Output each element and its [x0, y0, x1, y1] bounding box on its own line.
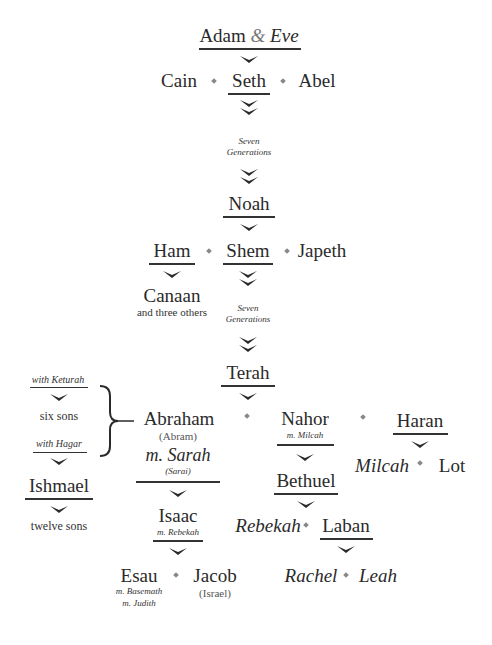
underline-abraham [136, 481, 220, 483]
chevron-down-icon [49, 393, 69, 403]
node-ishmael: Ishmael [29, 475, 89, 497]
node-abel: Abel [299, 70, 336, 92]
node-laban: Laban [322, 515, 369, 537]
six-sons: six sons [40, 410, 78, 423]
with-hagar: with Hagar [36, 438, 82, 449]
separator-dot [244, 413, 250, 419]
underline-noah [223, 216, 275, 218]
node-canaan: Canaan [144, 285, 201, 307]
chevron-down-icon [239, 55, 259, 65]
underline-isaac [153, 540, 203, 542]
seven-generations-2: Seven Generations [226, 303, 271, 325]
separator-dot [360, 414, 366, 420]
name-adam: Adam [199, 25, 245, 46]
node-isaac: Isaac [158, 505, 197, 527]
canaan-note: and three others [137, 306, 207, 319]
separator-dot [303, 522, 309, 528]
underline-adam-eve [199, 48, 301, 50]
abraham-spouse: m. Sarah [145, 444, 210, 466]
underline-laban [320, 538, 373, 540]
underline-seth [228, 93, 270, 95]
underline-terah [221, 385, 275, 387]
sarah-alias: (Sarai) [165, 466, 191, 477]
chevron-down-icon [336, 545, 356, 555]
chevron-down-icon [168, 489, 188, 499]
chevron-down-icon [238, 392, 258, 402]
node-haran: Haran [397, 410, 443, 432]
underline-haran [393, 433, 448, 435]
twelve-sons: twelve sons [31, 520, 87, 533]
esau-spouse-1: m. Basemath [116, 586, 163, 597]
with-keturah: with Keturah [32, 374, 85, 385]
underline-bethuel [274, 493, 338, 495]
node-milcah: Milcah [355, 455, 409, 477]
separator-dot [206, 248, 212, 254]
nahor-spouse: m. Milcah [287, 430, 324, 441]
chevron-down-icon [49, 505, 69, 515]
chevron-down-icon [168, 547, 188, 557]
underline-hagar [33, 452, 87, 453]
abraham-alias: (Abram) [159, 430, 197, 442]
separator-dot [284, 248, 290, 254]
node-terah: Terah [227, 362, 270, 384]
seven-generations-1: Seven Generations [227, 136, 272, 158]
separator-dot [343, 572, 349, 578]
chevron-down-icon [49, 457, 69, 467]
separator-dot [417, 460, 423, 466]
separator-dot [211, 78, 217, 84]
separator-dot [173, 572, 179, 578]
node-esau: Esau [121, 565, 158, 587]
chevron-down-icon [296, 500, 316, 510]
chevron-down-icon [239, 107, 259, 117]
node-jacob: Jacob [193, 565, 236, 587]
generations-label: Generations [226, 314, 271, 325]
chevron-down-icon [295, 453, 315, 463]
ampersand: & [251, 25, 266, 46]
underline-shem [223, 263, 273, 265]
isaac-spouse: m. Rebekah [157, 527, 199, 538]
node-lot: Lot [439, 455, 465, 477]
node-noah: Noah [228, 193, 269, 215]
underline-ishmael [25, 498, 93, 500]
node-rachel: Rachel [285, 565, 338, 587]
chevron-down-icon [239, 223, 259, 233]
node-abraham: Abraham [144, 408, 215, 430]
seven-label: Seven [226, 303, 271, 314]
chevron-down-icon [238, 344, 258, 354]
chevron-down-icon [239, 176, 259, 186]
curly-brace-icon [96, 384, 136, 458]
generations-label: Generations [227, 147, 272, 158]
node-japeth: Japeth [298, 240, 347, 262]
underline-nahor [277, 444, 334, 446]
node-seth: Seth [232, 70, 266, 92]
node-ham: Ham [154, 240, 191, 262]
node-adam-eve: Adam & Eve [199, 25, 298, 47]
node-bethuel: Bethuel [276, 470, 335, 492]
chevron-down-icon [410, 440, 430, 450]
underline-keturah [30, 387, 88, 388]
node-leah: Leah [359, 565, 397, 587]
node-nahor: Nahor [281, 408, 328, 430]
seven-label: Seven [227, 136, 272, 147]
node-shem: Shem [226, 240, 269, 262]
name-eve: Eve [270, 25, 298, 46]
node-cain: Cain [161, 70, 197, 92]
node-rebekah: Rebekah [235, 515, 300, 537]
chevron-down-icon [162, 270, 182, 280]
separator-dot [280, 78, 286, 84]
underline-ham [149, 263, 195, 265]
esau-spouse-2: m. Judith [122, 598, 156, 609]
jacob-alias: (Israel) [199, 587, 231, 599]
chevron-down-icon [238, 278, 258, 288]
